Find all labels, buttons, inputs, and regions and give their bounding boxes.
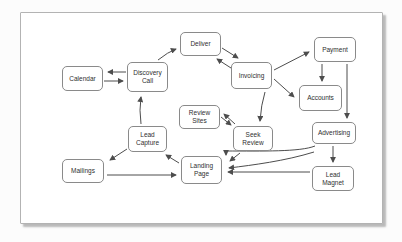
node-review-sites[interactable]: Review Sites	[179, 105, 220, 129]
node-calendar[interactable]: Calendar	[62, 66, 103, 91]
node-label: Landing Page	[184, 162, 219, 178]
node-label: Lead Magnet	[315, 171, 351, 187]
node-lead-capture[interactable]: Lead Capture	[128, 126, 167, 152]
node-lead-magnet[interactable]: Lead Magnet	[312, 166, 354, 191]
node-label: Mailings	[65, 167, 101, 175]
node-discovery-call[interactable]: Discovery Call	[127, 62, 168, 92]
node-deliver[interactable]: Deliver	[180, 32, 221, 56]
node-label: Discovery Call	[130, 69, 165, 85]
node-payment[interactable]: Payment	[314, 37, 356, 62]
node-accounts[interactable]: Accounts	[299, 85, 342, 111]
node-landing-page[interactable]: Landing Page	[181, 156, 222, 184]
node-label: Calendar	[65, 75, 100, 83]
node-label: Seek Review	[236, 131, 270, 147]
node-label: Accounts	[302, 94, 339, 102]
node-label: Payment	[317, 46, 353, 54]
node-seek-review[interactable]: Seek Review	[233, 126, 273, 151]
node-label: Lead Capture	[131, 131, 164, 147]
node-label: Deliver	[183, 40, 218, 48]
node-label: Invoicing	[234, 72, 269, 80]
node-label: Advertising	[315, 129, 353, 137]
node-advertising[interactable]: Advertising	[312, 122, 356, 144]
node-label: Review Sites	[182, 109, 217, 125]
node-mailings[interactable]: Mailings	[62, 159, 104, 183]
node-invoicing[interactable]: Invoicing	[231, 62, 272, 89]
